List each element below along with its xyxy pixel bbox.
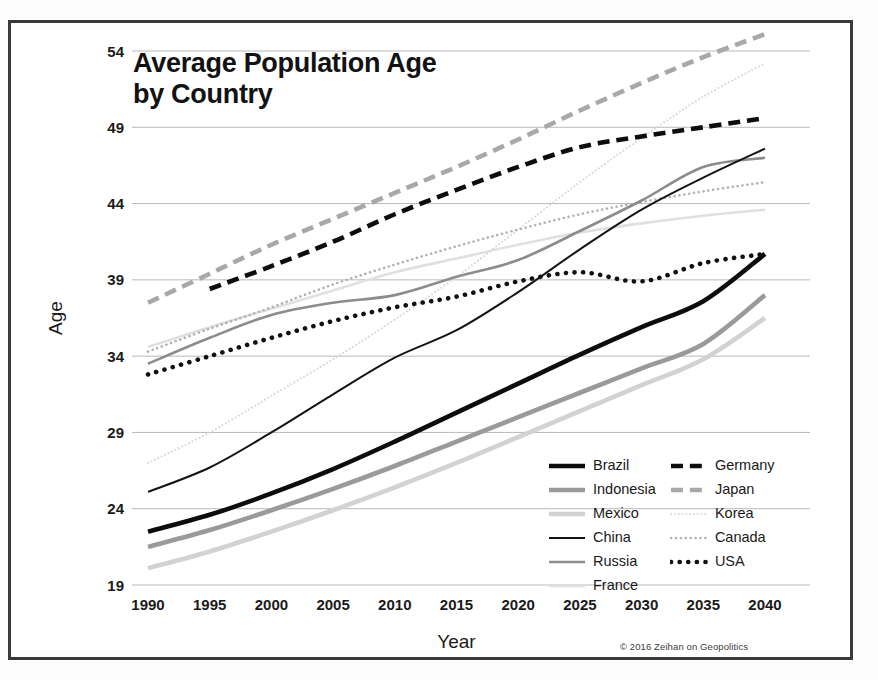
legend-label-usa: USA xyxy=(715,554,745,569)
legend-label-brazil: Brazil xyxy=(593,458,629,473)
legend-item-canada[interactable]: Canada xyxy=(670,527,775,548)
legend-label-indonesia: Indonesia xyxy=(593,482,656,497)
legend-swatch-brazil-icon xyxy=(548,459,586,473)
x-tick-2000: 2000 xyxy=(255,596,288,613)
legend-item-brazil[interactable]: Brazil xyxy=(548,455,656,476)
legend-item-china[interactable]: China xyxy=(548,527,656,548)
legend-swatch-canada-icon xyxy=(670,531,708,545)
legend-column-left: BrazilIndonesiaMexicoChinaRussiaFrance xyxy=(548,455,656,596)
y-tick-39: 39 xyxy=(107,271,124,288)
x-tick-2020: 2020 xyxy=(502,596,535,613)
legend-item-mexico[interactable]: Mexico xyxy=(548,503,656,524)
legend-item-france[interactable]: France xyxy=(548,575,656,596)
y-tick-19: 19 xyxy=(107,577,124,594)
chart-title-line-2: by Country xyxy=(133,79,513,110)
legend-swatch-korea-icon xyxy=(670,507,708,521)
x-tick-2015: 2015 xyxy=(440,596,473,613)
page-title: Average Population Age by Country xyxy=(133,48,513,110)
legend-swatch-indonesia-icon xyxy=(548,483,586,497)
y-axis-title: Age xyxy=(45,301,66,335)
y-tick-24: 24 xyxy=(107,500,124,517)
legend-item-japan[interactable]: Japan xyxy=(670,479,775,500)
y-tick-54: 54 xyxy=(107,43,124,60)
legend-swatch-russia-icon xyxy=(548,555,586,569)
legend-label-russia: Russia xyxy=(593,554,637,569)
legend-swatch-france-icon xyxy=(548,579,586,593)
legend-label-canada: Canada xyxy=(715,530,766,545)
x-tick-1990: 1990 xyxy=(131,596,164,613)
legend-label-france: France xyxy=(593,578,638,593)
legend-label-korea: Korea xyxy=(715,506,754,521)
x-axis-tick-labels: 1990199520002005201020152020202520302035… xyxy=(131,596,781,613)
x-tick-2040: 2040 xyxy=(748,596,781,613)
legend-label-china: China xyxy=(593,530,631,545)
legend-item-russia[interactable]: Russia xyxy=(548,551,656,572)
chart-figure: 1924293439444954199019952000200520102015… xyxy=(0,0,878,680)
legend-swatch-japan-icon xyxy=(670,483,708,497)
x-tick-2030: 2030 xyxy=(625,596,658,613)
y-tick-29: 29 xyxy=(107,424,124,441)
legend-label-mexico: Mexico xyxy=(593,506,639,521)
y-tick-49: 49 xyxy=(107,119,124,136)
x-tick-2035: 2035 xyxy=(687,596,720,613)
legend-label-japan: Japan xyxy=(715,482,755,497)
y-axis-tick-labels: 1924293439444954 xyxy=(107,43,124,594)
legend-swatch-mexico-icon xyxy=(548,507,586,521)
x-axis-title: Year xyxy=(437,631,476,652)
legend-item-korea[interactable]: Korea xyxy=(670,503,775,524)
legend-swatch-usa-icon xyxy=(670,555,708,569)
series-line-korea xyxy=(148,63,765,463)
legend-swatch-germany-icon xyxy=(670,459,708,473)
x-tick-2025: 2025 xyxy=(563,596,596,613)
x-tick-2010: 2010 xyxy=(378,596,411,613)
legend-item-indonesia[interactable]: Indonesia xyxy=(548,479,656,500)
x-tick-2005: 2005 xyxy=(316,596,349,613)
legend-swatch-china-icon xyxy=(548,531,586,545)
chart-legend: BrazilIndonesiaMexicoChinaRussiaFrance G… xyxy=(548,455,813,596)
legend-column-right: GermanyJapanKoreaCanadaUSA xyxy=(670,455,775,596)
legend-item-germany[interactable]: Germany xyxy=(670,455,775,476)
chart-title-line-1: Average Population Age xyxy=(133,48,513,79)
y-tick-34: 34 xyxy=(107,348,124,365)
legend-label-germany: Germany xyxy=(715,458,775,473)
legend-item-usa[interactable]: USA xyxy=(670,551,775,572)
y-tick-44: 44 xyxy=(107,195,124,212)
copyright-notice: © 2016 Zeihan on Geopolitics xyxy=(620,641,748,652)
x-tick-1995: 1995 xyxy=(193,596,226,613)
